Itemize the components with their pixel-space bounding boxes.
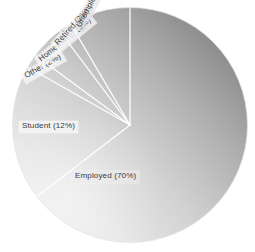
slice-label-employed: Employed (70%) xyxy=(72,171,139,183)
pie-chart: Employed (70%) Student (12%) Other (2%) … xyxy=(0,0,255,252)
slice-label-student: Student (12%) xyxy=(19,121,78,133)
